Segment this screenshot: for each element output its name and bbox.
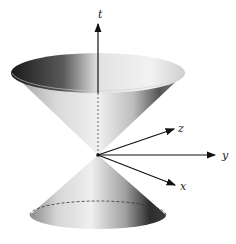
- lower-cone: [30, 155, 166, 229]
- origin-point: [96, 153, 100, 157]
- z-axis-label: z: [177, 122, 184, 135]
- lower-cone-surface: [30, 155, 166, 229]
- t-axis-label: t: [98, 8, 103, 21]
- x-axis-label: x: [180, 180, 187, 193]
- light-cone-diagram: t z y x: [0, 0, 236, 244]
- y-axis-label: y: [221, 149, 229, 162]
